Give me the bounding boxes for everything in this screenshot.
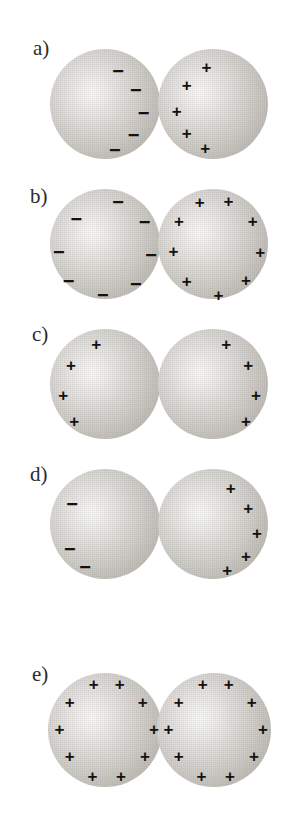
charge-symbol-plus: +	[168, 242, 178, 259]
charge-symbol-plus: +	[249, 748, 259, 765]
charge-symbol-plus: +	[224, 676, 234, 693]
charge-symbol-minus: −	[145, 245, 157, 265]
charge-symbol-minus: −	[63, 271, 75, 291]
charge-symbol-plus: +	[195, 194, 205, 211]
charge-symbol-minus: −	[138, 103, 150, 123]
left-sphere: −−−−−	[50, 49, 160, 159]
left-sphere: −−−−−−−−	[50, 189, 160, 299]
charge-symbol-plus: +	[247, 693, 257, 710]
charge-symbol-plus: +	[200, 140, 210, 157]
right-sphere: +++++++++	[158, 189, 268, 299]
charge-symbol-plus: +	[182, 273, 192, 290]
panel-e: e)++++++++++++++++++++	[0, 660, 283, 800]
left-sphere: −−−	[50, 469, 160, 579]
charge-symbol-minus: −	[112, 192, 124, 212]
charge-symbol-plus: +	[149, 720, 159, 737]
charge-symbol-minus: −	[97, 285, 109, 305]
charge-symbol-plus: +	[241, 413, 251, 430]
panel-label: c)	[32, 324, 48, 345]
charge-symbol-plus: +	[226, 479, 236, 496]
charge-symbol-minus: −	[64, 539, 76, 559]
charge-symbol-plus: +	[54, 720, 64, 737]
charge-symbol-plus: +	[174, 748, 184, 765]
charge-symbol-plus: +	[214, 286, 224, 303]
charge-symbol-minus: −	[109, 140, 121, 160]
charge-symbol-plus: +	[225, 767, 235, 784]
charge-symbol-plus: +	[241, 547, 251, 564]
right-sphere: ++++	[158, 329, 268, 439]
charge-symbol-plus: +	[87, 767, 97, 784]
charge-symbol-plus: +	[138, 693, 148, 710]
panel-label: b)	[30, 186, 48, 207]
charge-symbol-plus: +	[248, 212, 258, 229]
charge-symbol-plus: +	[252, 524, 262, 541]
charge-symbol-minus: −	[66, 494, 78, 514]
charge-symbol-plus: +	[182, 124, 192, 141]
charge-symbol-plus: +	[174, 212, 184, 229]
left-sphere: ++++++++++	[48, 673, 162, 787]
charge-symbol-plus: +	[58, 387, 68, 404]
charge-symbol-plus: +	[172, 102, 182, 119]
charge-symbol-plus: +	[243, 357, 253, 374]
charge-symbol-plus: +	[91, 336, 101, 353]
charge-symbol-minus: −	[79, 557, 91, 577]
right-sphere: ++++++++++	[157, 673, 271, 787]
charge-symbol-plus: +	[65, 748, 75, 765]
right-sphere: +++++	[158, 49, 268, 159]
right-sphere: +++++	[158, 469, 268, 579]
charge-symbol-plus: +	[241, 272, 251, 289]
charge-symbol-plus: +	[116, 767, 126, 784]
panel-a: a)−−−−−+++++	[0, 40, 283, 180]
panel-b: b)−−−−−−−−+++++++++	[0, 180, 283, 320]
charge-symbol-plus: +	[201, 58, 211, 75]
panel-c: c)++++++++	[0, 320, 283, 460]
charge-symbol-plus: +	[163, 720, 173, 737]
left-sphere: ++++	[50, 329, 160, 439]
charge-symbol-minus: −	[139, 212, 151, 232]
charge-symbol-plus: +	[89, 676, 99, 693]
charge-symbol-plus: +	[174, 693, 184, 710]
panel-label: e)	[32, 664, 48, 685]
charge-symbol-plus: +	[66, 357, 76, 374]
charge-symbol-plus: +	[258, 720, 268, 737]
charge-symbol-minus: −	[130, 80, 142, 100]
charge-symbol-minus: −	[128, 125, 140, 145]
charge-symbol-plus: +	[69, 413, 79, 430]
charge-symbol-plus: +	[221, 336, 231, 353]
charge-symbol-plus: +	[251, 387, 261, 404]
charge-symbol-plus: +	[243, 499, 253, 516]
charge-symbol-plus: +	[182, 77, 192, 94]
charge-symbol-plus: +	[222, 562, 232, 579]
panel-label: d)	[30, 464, 48, 485]
charge-symbol-plus: +	[196, 767, 206, 784]
charge-symbol-plus: +	[223, 193, 233, 210]
charge-symbol-minus: −	[112, 61, 124, 81]
panel-d: d)−−−+++++	[0, 460, 283, 600]
panel-label: a)	[33, 38, 49, 59]
charge-symbol-minus: −	[71, 209, 83, 229]
charge-symbol-plus: +	[65, 693, 75, 710]
charge-symbol-plus: +	[198, 676, 208, 693]
charge-symbol-plus: +	[140, 748, 150, 765]
charge-symbol-plus: +	[255, 243, 265, 260]
charge-symbol-minus: −	[130, 274, 142, 294]
charge-symbol-plus: +	[115, 676, 125, 693]
charge-symbol-minus: −	[53, 242, 65, 262]
charge-distribution-figure: a)−−−−−+++++b)−−−−−−−−+++++++++c)+++++++…	[0, 0, 283, 824]
